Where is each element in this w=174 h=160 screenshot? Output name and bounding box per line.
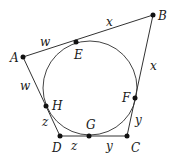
label-HA: w	[20, 79, 31, 93]
point-H	[44, 104, 49, 109]
point-G	[87, 134, 92, 139]
point-E	[74, 40, 79, 45]
label-DH: z	[41, 115, 49, 129]
label-EB: x	[106, 15, 113, 29]
label-B: B	[157, 9, 167, 23]
point-B	[151, 13, 156, 18]
label-F: F	[121, 91, 131, 105]
point-C	[125, 134, 130, 139]
label-BF: x	[150, 59, 157, 73]
label-E: E	[73, 48, 83, 62]
label-CG: y	[105, 139, 113, 153]
point-A	[21, 55, 26, 60]
label-G: G	[86, 118, 96, 132]
point-D	[58, 134, 63, 139]
label-A: A	[9, 51, 19, 65]
label-FC: y	[134, 113, 142, 127]
point-F	[133, 96, 138, 101]
label-C: C	[131, 141, 140, 155]
label-AE: w	[40, 35, 51, 49]
tangent-quadrilateral-diagram: A B C D E F G H w x x y y z z w	[0, 0, 174, 160]
label-D: D	[51, 141, 62, 155]
label-GD: z	[70, 139, 78, 153]
label-H: H	[51, 99, 63, 113]
